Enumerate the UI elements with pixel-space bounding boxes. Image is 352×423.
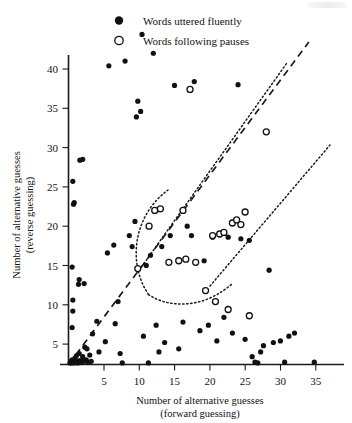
data-point [312,360,317,365]
data-point [82,281,87,286]
data-point [139,32,144,37]
data-point [180,207,186,213]
x-ticklabel-15: 15 [169,375,181,387]
data-point [148,253,153,258]
data-point [172,83,177,88]
page-edge-artifact [308,2,346,8]
data-point [263,129,269,135]
scatter-plot-figure: Words uttered fluently Words following p… [0,0,352,423]
data-point [144,263,149,268]
y-axis-title: Number of alternative guesses (reverse g… [11,151,36,278]
data-point [141,334,146,339]
data-point [210,233,216,239]
data-point [76,282,81,287]
data-point [120,360,125,365]
data-point [94,319,99,324]
data-point [156,349,161,354]
data-point [146,360,151,365]
data-point [135,99,140,104]
data-point [151,51,156,56]
x-ticklabel-10: 10 [134,375,146,387]
data-point [127,233,132,238]
data-point [282,360,287,365]
data-point [261,343,266,348]
data-point [183,256,189,262]
data-point [87,352,92,357]
data-point [176,346,181,351]
lower-envelope-line [210,145,330,286]
data-point [115,299,120,304]
data-point [238,236,243,241]
data-point [162,340,167,345]
data-point [132,219,137,224]
data-point [271,340,276,345]
data-point [168,233,173,238]
data-point [96,349,101,354]
legend-label-pauses: Words following pauses [143,35,249,47]
y-ticklabel-25: 25 [47,181,59,193]
data-point [89,359,94,364]
data-point [103,339,108,344]
data-point [72,200,77,205]
x-ticklabel-20: 20 [204,375,216,387]
data-point [238,222,244,228]
data-point [225,306,231,312]
data-point [246,313,252,319]
data-point [243,337,248,342]
y-ticklabel-35: 35 [47,102,59,114]
data-point [185,224,190,229]
data-point [286,334,291,339]
data-point [180,319,185,324]
y-ticklabel-20: 20 [47,220,59,232]
data-point [106,63,111,68]
x-axis-title-line2: (forward guessing) [160,408,240,420]
legend-marker-open-circle-icon [115,36,123,44]
data-point [90,331,95,336]
x-axis-title-line1: Number of alternative guesses [136,395,263,406]
data-point [193,259,199,265]
data-point [255,360,260,365]
legend-marker-filled-circle-icon [115,16,123,24]
y-ticklabel-40: 40 [47,63,59,75]
data-point [221,315,226,320]
data-point [70,179,75,184]
data-point [230,330,235,335]
data-point [189,233,194,238]
data-point [134,114,139,119]
data-point [77,277,82,282]
y-axis-title-line1: Number of alternative guesses [11,151,22,278]
legend: Words uttered fluently Words following p… [115,15,249,47]
data-point [258,349,263,354]
data-point [187,86,193,92]
x-ticklabel-30: 30 [275,375,287,387]
y-axis-ticks: 40 35 30 25 20 15 10 5 [47,63,69,350]
x-axis-ticks: 5 10 15 20 25 30 35 [101,365,322,388]
data-point [176,258,182,264]
data-point [197,328,202,333]
data-point [250,354,255,359]
data-point [70,308,75,313]
data-point [278,338,283,343]
data-point [242,209,248,215]
y-axis-title-line2: (reverse guessing) [24,176,36,253]
y-ticklabel-10: 10 [47,299,59,311]
x-ticklabel-25: 25 [240,375,252,387]
data-point [70,264,75,269]
data-point [212,299,218,305]
funnel-bottom-arc [149,284,233,304]
funnel-left-arc [136,190,168,295]
data-point [226,235,231,240]
legend-label-fluent: Words uttered fluently [143,15,242,27]
data-point [113,321,118,326]
data-point [206,323,211,328]
data-point [159,244,164,249]
data-point [130,244,135,249]
axes [60,55,344,365]
data-point [247,238,252,243]
data-point [292,330,297,335]
y-ticklabel-15: 15 [47,260,59,272]
x-axis-title: Number of alternative guesses (forward g… [136,395,263,420]
y-ticklabel-30: 30 [47,142,59,154]
data-point [70,297,75,302]
chart-canvas: Words uttered fluently Words following p… [0,0,352,423]
